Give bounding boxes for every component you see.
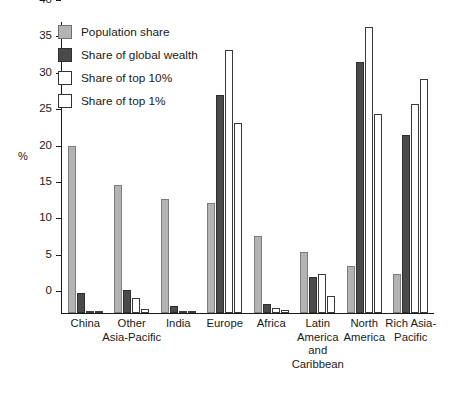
y-tick-label-20: 20 [39, 140, 52, 152]
legend-swatch-icon [58, 25, 72, 39]
bar-group [254, 236, 289, 313]
bar [263, 304, 271, 313]
bar-group [114, 185, 149, 313]
bar [114, 185, 122, 313]
bar [272, 308, 280, 313]
bar [179, 311, 187, 313]
bar-group [68, 146, 103, 313]
bar [95, 311, 103, 313]
y-tick-label-5: 5 [46, 249, 52, 261]
bar-group [300, 252, 335, 313]
y-tick-mark [56, 0, 61, 1]
legend-label: Share of top 10% [81, 71, 172, 85]
bar [374, 114, 382, 313]
y-tick-label-40: 40 [39, 0, 52, 6]
y-tick-label-35: 35 [39, 31, 52, 43]
bar [234, 123, 242, 313]
x-axis-label-7: Rich Asia-Pacific [377, 317, 444, 344]
bar [356, 62, 364, 313]
y-tick-label-30: 30 [39, 67, 52, 79]
y-axis-ticks: 0510152025303540 [0, 0, 61, 292]
bar [86, 311, 94, 313]
x-label-line: Caribbean [284, 358, 351, 372]
bar [309, 277, 317, 313]
x-axis-labels: ChinaOtherAsia-PacificIndiaEuropeAfricaL… [62, 317, 434, 389]
x-axis-line [61, 313, 434, 314]
bar [402, 135, 410, 313]
legend-item: Share of top 10% [58, 68, 268, 88]
bar [141, 309, 149, 313]
legend-label: Share of top 1% [81, 94, 166, 108]
bar-group [393, 79, 428, 313]
bar [420, 79, 428, 313]
bar [411, 104, 419, 313]
bar [216, 95, 224, 313]
bar [281, 310, 289, 313]
x-label-line: Pacific [377, 331, 444, 345]
bar-group [347, 27, 382, 313]
y-tick-label-10: 10 [39, 213, 52, 225]
bar [170, 306, 178, 313]
bar [207, 203, 215, 313]
x-label-line: and [284, 344, 351, 358]
bar [77, 293, 85, 313]
bar-chart: % 0510152025303540 ChinaOtherAsia-Pacifi… [0, 0, 455, 393]
bar [300, 252, 308, 313]
chart-legend: Population shareShare of global wealthSh… [58, 22, 268, 114]
y-tick-label-25: 25 [39, 103, 52, 115]
bar [318, 274, 326, 313]
x-label-line: Asia-Pacific [98, 331, 165, 345]
bar [123, 290, 131, 313]
legend-swatch-icon [58, 71, 72, 85]
legend-label: Population share [81, 25, 170, 39]
legend-item: Share of top 1% [58, 91, 268, 111]
x-label-line: Rich Asia- [377, 317, 444, 331]
legend-label: Share of global wealth [81, 48, 198, 62]
bar [188, 311, 196, 313]
legend-swatch-icon [58, 48, 72, 62]
bar [365, 27, 373, 313]
bar [132, 298, 140, 313]
y-tick-label-0: 0 [46, 285, 52, 297]
bar [393, 274, 401, 313]
bar [347, 266, 355, 313]
y-tick-label-15: 15 [39, 176, 52, 188]
bar [254, 236, 262, 313]
bar [68, 146, 76, 313]
legend-item: Share of global wealth [58, 45, 268, 65]
legend-swatch-icon [58, 94, 72, 108]
legend-item: Population share [58, 22, 268, 42]
bar-group [161, 199, 196, 313]
bar [327, 296, 335, 313]
bar [161, 199, 169, 313]
